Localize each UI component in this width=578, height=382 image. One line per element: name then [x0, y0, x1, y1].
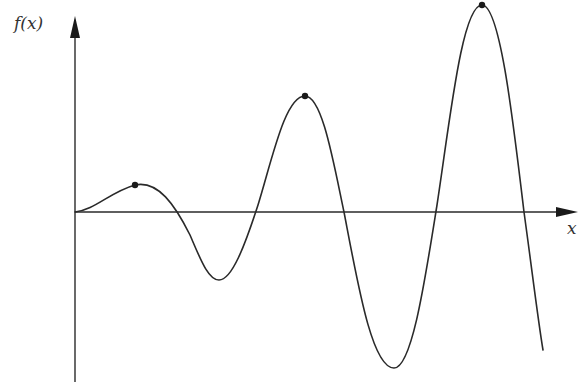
local-max-3-point [479, 2, 485, 8]
local-max-1-point [132, 182, 138, 188]
x-axis-arrow-icon [556, 207, 578, 217]
y-axis-arrow-icon [70, 16, 80, 38]
local-max-2-point [302, 93, 308, 99]
x-axis-label: x [567, 220, 577, 237]
y-axis-label: f(x) [14, 15, 43, 32]
function-plot [0, 0, 578, 382]
function-curve [75, 5, 543, 368]
